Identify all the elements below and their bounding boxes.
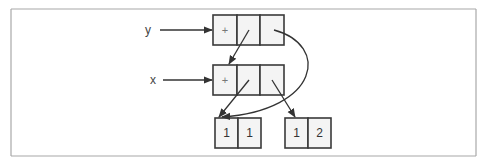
x-label: x [150, 73, 156, 87]
y-cell-2 [260, 15, 284, 45]
list-diagram: y x + + 1 1 1 2 [0, 0, 487, 165]
x-cell-0-text: + [222, 74, 228, 86]
x-variable: x [150, 73, 212, 87]
y-variable: y [145, 23, 212, 37]
right-pair-value-0: 1 [293, 126, 300, 140]
right-pair-value-1: 2 [316, 126, 323, 140]
right-pair-node: 1 2 [285, 118, 331, 148]
left-pair-value-0: 1 [223, 126, 230, 140]
y-label: y [145, 23, 151, 37]
y-cell-0-text: + [222, 24, 228, 36]
left-pair-value-1: 1 [246, 126, 253, 140]
left-pair-node: 1 1 [215, 118, 261, 148]
